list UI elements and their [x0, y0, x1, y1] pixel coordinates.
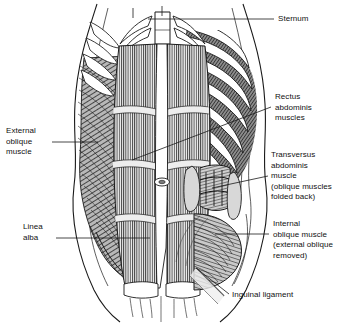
label-transversus-abdominis: Transversus abdominis muscle (oblique mu… — [271, 150, 332, 203]
label-internal-oblique: Internal oblique muscle (external obliqu… — [273, 219, 333, 261]
label-inguinal-ligament: Inguinal ligament — [232, 290, 293, 301]
folded-oblique-flap — [184, 166, 200, 212]
anatomy-figure: Sternum Rectus abdominis muscles Transve… — [0, 0, 356, 327]
navel — [155, 178, 170, 186]
label-sternum: Sternum — [278, 14, 309, 25]
linea-alba — [156, 44, 168, 288]
label-rectus-abdominis: Rectus abdominis muscles — [275, 92, 312, 124]
label-linea-alba: Linea alba — [23, 222, 43, 243]
label-external-oblique: External oblique muscle — [6, 126, 36, 158]
